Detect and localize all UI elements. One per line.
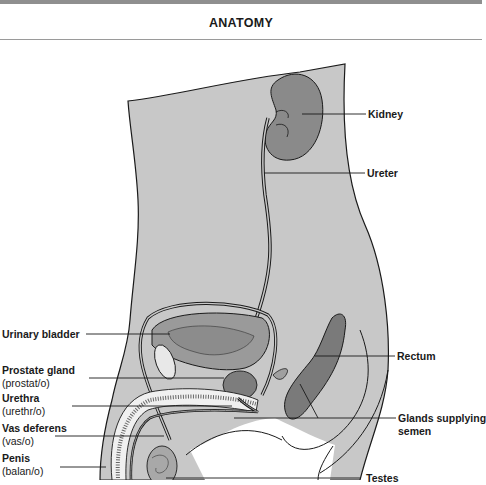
- label-ureter: Ureter: [367, 167, 398, 180]
- label-glands-supplying-semen: Glands supplying semen: [398, 412, 486, 437]
- label-testes: Testes: [366, 472, 399, 485]
- label-urinary-bladder: Urinary bladder: [2, 328, 80, 341]
- label-kidney: Kidney: [368, 108, 403, 121]
- label-urethra: Urethra (urethr/o): [2, 392, 45, 417]
- label-prostate-gland: Prostate gland (prostat/o): [2, 364, 75, 389]
- label-vas-deferens: Vas deferens (vas/o): [2, 422, 67, 447]
- testis: [147, 446, 177, 480]
- label-rectum: Rectum: [397, 350, 436, 363]
- label-penis: Penis (balan/o): [2, 452, 43, 477]
